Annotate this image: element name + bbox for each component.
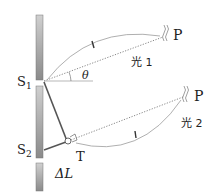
point-t: [65, 138, 71, 144]
label-s2: S2: [17, 142, 32, 159]
light1-tick: [92, 41, 94, 48]
label-light2: 光 2: [181, 116, 203, 130]
s2-t-line: [44, 142, 66, 150]
theta-arc: [69, 72, 71, 81]
wall-top: [36, 15, 43, 80]
label-s1: S1: [17, 74, 32, 91]
light2-tick: [135, 131, 136, 138]
wall-bottom: [36, 163, 43, 191]
s1-t-line: [44, 82, 67, 141]
label-p-bottom: P: [194, 88, 203, 104]
label-light1: 光 1: [131, 55, 153, 69]
double-slit-diagram: S1 S2 P P 光 1 光 2 θ T ΔL: [0, 0, 218, 194]
wall-middle: [36, 86, 43, 158]
break-mark-bottom: [183, 86, 189, 102]
light2-curve: [76, 100, 181, 147]
label-t: T: [76, 149, 85, 164]
label-p-top: P: [173, 27, 182, 43]
label-theta: θ: [82, 69, 89, 82]
break-mark-top: [163, 25, 169, 41]
label-delta-l: ΔL: [54, 166, 73, 181]
